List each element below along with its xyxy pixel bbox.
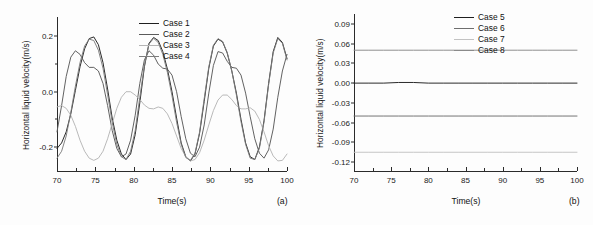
y-tick-mark xyxy=(351,43,355,44)
legend-swatch-line-icon xyxy=(139,45,159,46)
y-tick-mark xyxy=(351,83,355,84)
x-tick-label: 100 xyxy=(280,172,293,185)
series-line xyxy=(354,82,577,83)
legend-label: Case 8 xyxy=(478,45,505,55)
panel-a: Horizontal liquid velocity(m/s) Case 1Ca… xyxy=(0,0,300,225)
legend-item-case-3: Case 3 xyxy=(139,40,190,50)
legend-panel-b: Case 5Case 6Case 7Case 8 xyxy=(454,12,505,55)
legend-swatch-line-icon xyxy=(454,39,474,40)
x-tick-label: 80 xyxy=(424,172,433,185)
legend-panel-a: Case 1Case 2Case 3Case 4 xyxy=(139,18,190,61)
legend-item-case-2: Case 2 xyxy=(139,29,190,39)
legend-swatch-line-icon xyxy=(139,34,159,35)
x-tick-label: 85 xyxy=(461,172,470,185)
legend-swatch-line-icon xyxy=(139,23,159,24)
plot-area-panel-a: Case 1Case 2Case 3Case 4 -0.20.00.270758… xyxy=(57,17,287,172)
legend-swatch-line-icon xyxy=(139,56,159,57)
y-axis-label-panel-a: Horizontal liquid velocity(m/s) xyxy=(22,40,31,150)
y-tick-mark xyxy=(54,147,58,148)
legend-item-case-8: Case 8 xyxy=(454,45,505,55)
y-tick-mark xyxy=(54,36,58,37)
x-axis-label-panel-b: Time(s) xyxy=(452,196,481,206)
x-tick-label: 85 xyxy=(168,172,177,185)
x-tick-label: 70 xyxy=(53,172,62,185)
legend-label: Case 2 xyxy=(163,29,190,39)
y-tick-mark xyxy=(351,63,355,64)
x-tick-label: 95 xyxy=(244,172,253,185)
legend-label: Case 1 xyxy=(163,18,190,28)
legend-label: Case 3 xyxy=(163,40,190,50)
y-tick-mark xyxy=(351,23,355,24)
x-axis-label-panel-a: Time(s) xyxy=(158,196,187,206)
x-tick-label: 75 xyxy=(91,172,100,185)
panel-tag-a: (a) xyxy=(277,196,288,206)
legend-item-case-6: Case 6 xyxy=(454,23,505,33)
x-tick-label: 70 xyxy=(350,172,359,185)
legend-swatch-line-icon xyxy=(454,28,474,29)
legend-item-case-4: Case 4 xyxy=(139,51,190,61)
y-tick-mark xyxy=(351,102,355,103)
x-tick-label: 80 xyxy=(129,172,138,185)
legend-item-case-1: Case 1 xyxy=(139,18,190,28)
y-tick-mark xyxy=(351,122,355,123)
series-line xyxy=(57,51,287,158)
y-tick-mark-minor xyxy=(55,64,58,65)
y-tick-mark xyxy=(351,142,355,143)
figure-two-panel-line-plots: Horizontal liquid velocity(m/s) Case 1Ca… xyxy=(0,0,593,225)
y-tick-mark-minor xyxy=(55,119,58,120)
x-tick-label: 90 xyxy=(498,172,507,185)
legend-label: Case 5 xyxy=(478,12,505,22)
x-tick-label: 75 xyxy=(387,172,396,185)
legend-item-case-5: Case 5 xyxy=(454,12,505,22)
x-tick-label: 90 xyxy=(206,172,215,185)
legend-label: Case 7 xyxy=(478,34,505,44)
y-axis-label-panel-b: Horizontal liquid velocity(m/s) xyxy=(316,38,325,148)
y-tick-mark xyxy=(351,162,355,163)
legend-item-case-7: Case 7 xyxy=(454,34,505,44)
plot-area-panel-b: Case 5Case 6Case 7Case 8 0.090.060.030.0… xyxy=(354,14,577,172)
legend-label: Case 6 xyxy=(478,23,505,33)
y-tick-mark xyxy=(54,91,58,92)
panel-b: Horizontal liquid velocity(m/s) Case 5Ca… xyxy=(300,0,593,225)
legend-swatch-line-icon xyxy=(454,17,474,18)
x-tick-mark xyxy=(577,167,578,171)
x-tick-mark xyxy=(287,167,288,171)
legend-swatch-line-icon xyxy=(454,50,474,51)
x-tick-label: 95 xyxy=(535,172,544,185)
x-tick-label: 100 xyxy=(570,172,583,185)
panel-tag-b: (b) xyxy=(569,196,580,206)
legend-label: Case 4 xyxy=(163,51,190,61)
